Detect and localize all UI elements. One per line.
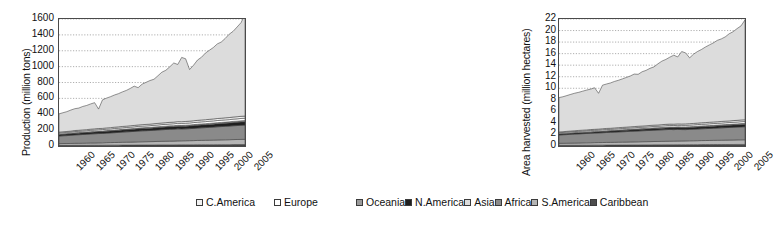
- production-x-tick-label: 1980: [153, 149, 177, 173]
- legend-swatch-icon: [590, 199, 597, 206]
- area-harvested-y-axis-ticks: 0246810121416182022: [522, 18, 556, 145]
- production-y-tick-label: 1400: [32, 29, 54, 39]
- production-y-tick-label: 800: [37, 77, 54, 87]
- legend-item-europe[interactable]: Europe: [274, 196, 356, 208]
- legend-swatch-icon: [495, 199, 502, 206]
- area-harvested-y-tick-label: 12: [545, 71, 556, 81]
- production-y-tick-label: 600: [37, 92, 54, 102]
- area-harvested-x-tick-label: 1975: [633, 149, 657, 173]
- area-harvested-x-tick-label: 1985: [672, 149, 696, 173]
- area-harvested-y-tick-label: 18: [545, 36, 556, 46]
- legend-label: N.America: [415, 196, 464, 208]
- legend-item-s-america[interactable]: S.America: [531, 196, 589, 208]
- area-harvested-y-tick-label: 0: [550, 140, 556, 150]
- legend-label: Caribbean: [600, 196, 648, 208]
- legend-item-c-america[interactable]: C.America: [196, 196, 274, 208]
- area-harvested-x-tick-label: 1970: [613, 149, 637, 173]
- area-harvested-y-tick-label: 20: [545, 25, 556, 35]
- production-y-tick-label: 400: [37, 108, 54, 118]
- legend-item-caribbean[interactable]: Caribbean: [590, 196, 648, 208]
- area-harvested-x-tick-label: 1960: [574, 149, 598, 173]
- legend-item-asia[interactable]: Asia: [464, 196, 494, 208]
- area-harvested-y-tick-label: 22: [545, 13, 556, 23]
- legend-swatch-icon: [356, 199, 363, 206]
- production-chart-panel: Production (million tons) 02004006008001…: [0, 0, 253, 190]
- area-harvested-y-tick-label: 16: [545, 48, 556, 58]
- area-harvested-x-axis-ticks: 1960196519701975198019851990199520002005: [558, 147, 744, 189]
- production-x-tick-label: 1960: [74, 149, 98, 173]
- legend-item-oceania[interactable]: Oceania: [356, 196, 405, 208]
- legend-swatch-icon: [274, 199, 281, 206]
- legend-swatch-icon: [196, 199, 203, 206]
- production-x-tick-label: 1985: [172, 149, 196, 173]
- legend-label: Asia: [474, 196, 494, 208]
- production-series-asia: [59, 19, 245, 132]
- legend-swatch-icon: [405, 199, 412, 206]
- chart-legend: C.AmericaEuropeOceaniaN.AmericaAsiaAfric…: [196, 196, 356, 208]
- legend-label: C.America: [206, 196, 255, 208]
- production-plot-area: [58, 18, 246, 147]
- legend-label: Europe: [284, 196, 318, 208]
- production-y-tick-label: 1200: [32, 45, 54, 55]
- production-x-axis-ticks: 1960196519701975198019851990199520002005: [58, 147, 244, 189]
- area-harvested-x-tick-label: 1990: [692, 149, 716, 173]
- area-harvested-y-tick-label: 2: [550, 128, 556, 138]
- area-harvested-x-tick-label: 2000: [732, 149, 756, 173]
- area-harvested-y-tick-label: 14: [545, 59, 556, 69]
- production-x-tick-label: 1995: [212, 149, 236, 173]
- legend-swatch-icon: [531, 199, 538, 206]
- area-harvested-x-tick-label: 1995: [712, 149, 736, 173]
- area-harvested-y-tick-label: 6: [550, 105, 556, 115]
- legend-label: Africa: [505, 196, 532, 208]
- production-y-tick-label: 1000: [32, 61, 54, 71]
- area-harvested-y-tick-label: 10: [545, 82, 556, 92]
- area-harvested-x-tick-label: 1980: [653, 149, 677, 173]
- area-harvested-y-tick-label: 8: [550, 94, 556, 104]
- production-y-tick-label: 200: [37, 124, 54, 134]
- legend-item-n-america[interactable]: N.America: [405, 196, 464, 208]
- legend-item-africa[interactable]: Africa: [495, 196, 532, 208]
- production-y-tick-label: 0: [48, 140, 54, 150]
- production-y-tick-label: 1600: [32, 13, 54, 23]
- area-harvested-y-tick-label: 4: [550, 117, 556, 127]
- legend-swatch-icon: [464, 199, 471, 206]
- production-x-tick-label: 1970: [113, 149, 137, 173]
- legend-label: Oceania: [366, 196, 405, 208]
- area-harvested-chart-panel: Area harvested (million hectares) 024681…: [250, 0, 505, 190]
- area-harvested-series-asia: [559, 20, 745, 132]
- area-harvested-x-tick-label: 1965: [593, 149, 617, 173]
- area-harvested-plot-area: [558, 18, 746, 147]
- production-y-axis-ticks: 02004006008001000120014001600: [20, 18, 54, 145]
- production-x-tick-label: 1965: [93, 149, 117, 173]
- production-x-tick-label: 1975: [133, 149, 157, 173]
- area-harvested-x-tick-label: 2005: [752, 149, 775, 173]
- legend-label: S.America: [541, 196, 589, 208]
- production-x-tick-label: 1990: [192, 149, 216, 173]
